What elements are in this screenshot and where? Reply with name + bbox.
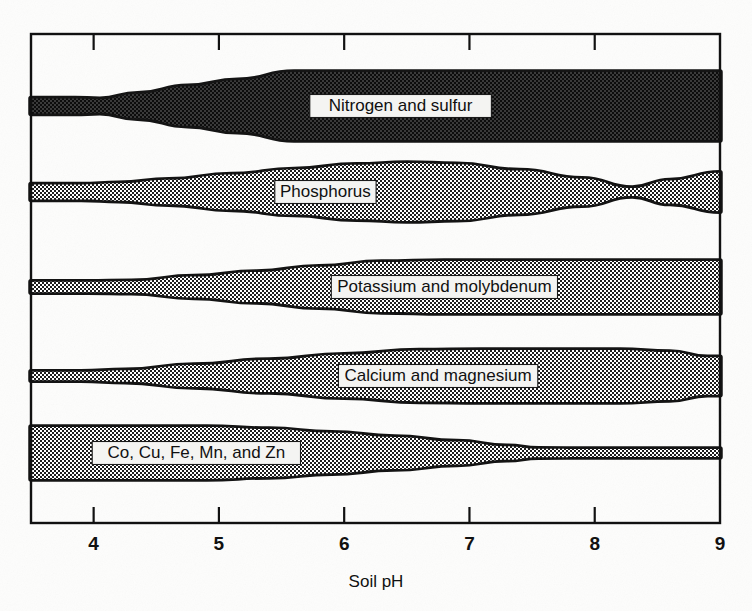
x-tick-label: 5 bbox=[214, 533, 225, 554]
x-tick-label: 8 bbox=[589, 533, 600, 554]
band-label: Co, Cu, Fe, Mn, and Zn bbox=[92, 442, 300, 465]
band-label-text: Calcium and magnesium bbox=[345, 366, 532, 385]
band-label-text: Phosphorus bbox=[280, 182, 371, 201]
band-label: Calcium and magnesium bbox=[338, 365, 537, 388]
x-tick-label: 4 bbox=[88, 533, 99, 554]
soil-ph-availability-figure: Nitrogen and sulfurPhosphorusPotassium a… bbox=[0, 0, 752, 611]
band-label: Phosphorus bbox=[275, 181, 376, 204]
band-label: Potassium and molybdenum bbox=[331, 276, 557, 299]
x-axis-title: Soil pH bbox=[349, 572, 404, 591]
band-label-text: Potassium and molybdenum bbox=[337, 277, 552, 296]
x-tick-label: 6 bbox=[339, 533, 350, 554]
band-label: Nitrogen and sulfur bbox=[310, 95, 492, 118]
x-tick-label: 7 bbox=[464, 533, 475, 554]
band-label-text: Nitrogen and sulfur bbox=[329, 96, 473, 115]
x-tick-label: 9 bbox=[715, 533, 726, 554]
chart-canvas: Nitrogen and sulfurPhosphorusPotassium a… bbox=[0, 0, 752, 611]
band-label-text: Co, Cu, Fe, Mn, and Zn bbox=[108, 443, 286, 462]
